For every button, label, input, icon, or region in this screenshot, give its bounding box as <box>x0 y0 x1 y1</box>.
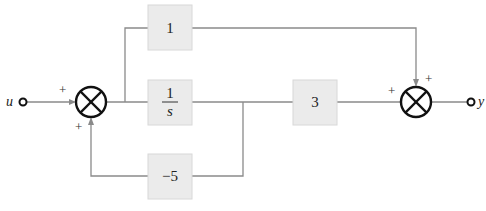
block-diagram: u + + 1 1 s −5 3 + + y <box>0 0 486 211</box>
sum1-input-sign: + <box>59 82 66 97</box>
sum2-top-sign: + <box>425 71 432 86</box>
input-label: u <box>6 94 13 109</box>
integrator-denominator: s <box>167 103 173 119</box>
summing-junction-2 <box>401 87 431 117</box>
input-terminal <box>20 99 27 106</box>
sum2-left-sign: + <box>388 83 395 98</box>
block-output-gain: 3 <box>293 80 337 125</box>
output-label: y <box>476 94 485 109</box>
summing-junction-1 <box>76 87 106 117</box>
block-feedthrough: 1 <box>148 5 192 50</box>
block-integrator: 1 s <box>148 80 192 125</box>
output-terminal <box>468 99 475 106</box>
integrator-numerator: 1 <box>166 85 174 101</box>
wire-feedback-to-sum1 <box>91 124 148 176</box>
wire-branch-to-feedthrough <box>125 28 148 102</box>
block-feedthrough-label: 1 <box>166 20 174 36</box>
sum1-feedback-sign: + <box>75 119 82 134</box>
block-feedback-gain-label: −5 <box>162 168 178 184</box>
wire-branch-to-feedback <box>192 102 243 176</box>
block-feedback-gain: −5 <box>148 154 192 199</box>
block-output-gain-label: 3 <box>311 94 319 110</box>
wire-feedthrough-to-sum2 <box>192 28 416 80</box>
